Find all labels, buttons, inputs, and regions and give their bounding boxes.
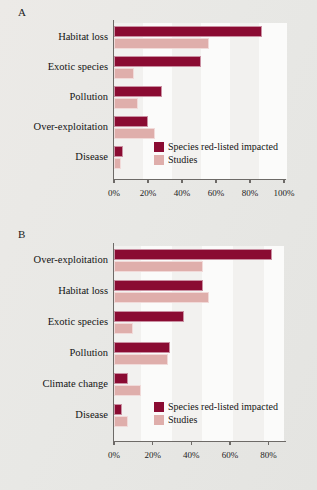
legend-entry: Studies [154, 154, 278, 166]
x-tick-mark [181, 179, 182, 183]
legend-swatch-dark-icon [154, 402, 164, 412]
bar-studies [114, 292, 209, 303]
bar-row: Habitat loss [114, 26, 284, 49]
bar-species-red-listed-impacted [114, 26, 262, 37]
panel-a-legend: Species red-listed impacted Studies [154, 141, 278, 167]
x-tick-label: 100% [274, 188, 295, 198]
x-tick-label: 0% [108, 188, 120, 198]
category-label: Pollution [69, 92, 108, 103]
panel-a-plot: Habitat lossExotic speciesPollutionOver-… [114, 23, 284, 179]
bar-species-red-listed-impacted [114, 56, 201, 67]
category-label: Disease [75, 152, 108, 163]
bar-studies [114, 68, 134, 79]
bar-studies [114, 354, 168, 365]
category-label: Exotic species [48, 62, 108, 73]
bar-studies [114, 38, 209, 49]
legend-label-dark: Species red-listed impacted [168, 141, 278, 153]
x-tick-mark [113, 179, 114, 183]
bar-row: Pollution [114, 342, 284, 365]
category-label: Exotic species [48, 317, 108, 328]
x-tick-mark [191, 441, 192, 445]
category-label: Pollution [69, 348, 108, 359]
legend-label-dark: Species red-listed impacted [168, 401, 278, 413]
x-tick-label: 20% [144, 450, 161, 460]
x-tick-label: 20% [140, 188, 157, 198]
legend-swatch-dark-icon [154, 142, 164, 152]
bar-species-red-listed-impacted [114, 373, 128, 384]
panel-a-letter: A [18, 6, 26, 18]
x-tick-label: 60% [208, 188, 225, 198]
category-label: Disease [75, 410, 108, 421]
x-tick-label: 80% [242, 188, 259, 198]
x-tick-label: 0% [108, 450, 120, 460]
bar-species-red-listed-impacted [114, 86, 162, 97]
legend-label-light: Studies [168, 154, 197, 166]
x-tick-label: 40% [174, 188, 191, 198]
bar-species-red-listed-impacted [114, 404, 122, 415]
x-tick-mark [152, 441, 153, 445]
bar-row: Climate change [114, 373, 284, 396]
x-tick-mark [229, 441, 230, 445]
bar-species-red-listed-impacted [114, 249, 272, 260]
bar-row: Over-exploitation [114, 249, 284, 272]
bar-studies [114, 416, 128, 427]
panel-b-letter: B [18, 228, 26, 240]
bar-species-red-listed-impacted [114, 146, 123, 157]
legend-swatch-light-icon [154, 155, 164, 165]
x-tick-label: 60% [222, 450, 239, 460]
bar-row: Exotic species [114, 56, 284, 79]
bar-species-red-listed-impacted [114, 116, 148, 127]
bar-studies [114, 323, 133, 334]
x-tick-mark [268, 441, 269, 445]
figure-canvas: A Habitat lossExotic speciesPollutionOve… [0, 0, 317, 490]
bar-studies [114, 261, 203, 272]
x-tick-mark [147, 179, 148, 183]
panel-b-legend: Species red-listed impacted Studies [154, 401, 278, 427]
panel-a: A Habitat lossExotic speciesPollutionOve… [0, 6, 317, 216]
panel-b: B Over-exploitationHabitat lossExotic sp… [0, 228, 317, 478]
bar-species-red-listed-impacted [114, 280, 203, 291]
category-label: Over-exploitation [34, 255, 108, 266]
bar-species-red-listed-impacted [114, 311, 184, 322]
x-tick-label: 40% [183, 450, 200, 460]
legend-entry: Studies [154, 414, 278, 426]
panel-b-plot: Over-exploitationHabitat lossExotic spec… [114, 246, 284, 441]
bar-row: Pollution [114, 86, 284, 109]
bar-studies [114, 128, 155, 139]
legend-swatch-light-icon [154, 415, 164, 425]
category-label: Climate change [42, 379, 108, 390]
bar-studies [114, 98, 138, 109]
panel-b-x-axis [113, 441, 286, 442]
bar-studies [114, 158, 121, 169]
legend-entry: Species red-listed impacted [154, 141, 278, 153]
bar-studies [114, 385, 141, 396]
bar-row: Habitat loss [114, 280, 284, 303]
bar-species-red-listed-impacted [114, 342, 170, 353]
x-tick-mark [249, 179, 250, 183]
panel-a-x-axis [113, 179, 286, 180]
legend-entry: Species red-listed impacted [154, 401, 278, 413]
x-tick-mark [113, 441, 114, 445]
category-label: Over-exploitation [34, 122, 108, 133]
x-tick-mark [215, 179, 216, 183]
legend-label-light: Studies [168, 414, 197, 426]
x-tick-label: 80% [260, 450, 277, 460]
bar-row: Exotic species [114, 311, 284, 334]
x-tick-mark [283, 179, 284, 183]
bar-row: Over-exploitation [114, 116, 284, 139]
category-label: Habitat loss [58, 32, 108, 43]
category-label: Habitat loss [58, 286, 108, 297]
